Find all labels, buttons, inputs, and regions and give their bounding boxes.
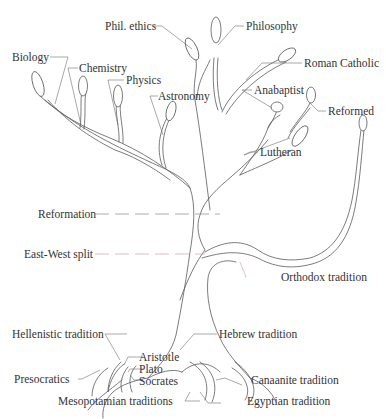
- label-hellenistic-tradition: Hellenistic tradition: [12, 328, 104, 340]
- label-plato: Plato: [139, 363, 163, 375]
- label-biology: Biology: [12, 51, 49, 64]
- label-mesopotamian-traditions: Mesopotamian traditions: [58, 395, 173, 408]
- label-anabaptist: Anabaptist: [254, 84, 305, 97]
- label-phil-ethics: Phil. ethics: [105, 20, 157, 32]
- label-hebrew-tradition: Hebrew tradition: [219, 328, 297, 340]
- label-egyptian-tradition: Egyptian tradition: [247, 395, 331, 408]
- label-socrates: Socrates: [139, 375, 178, 387]
- label-philosophy: Philosophy: [246, 20, 298, 33]
- label-canaanite-tradition: Canaanite tradition: [251, 374, 339, 386]
- label-lutheran: Lutheran: [260, 146, 302, 158]
- label-reformed: Reformed: [328, 105, 374, 117]
- label-physics: Physics: [126, 74, 162, 87]
- label-presocratics: Presocratics: [14, 373, 70, 385]
- label-reformation: Reformation: [38, 208, 96, 220]
- tree-diagram: Phil. ethics Philosophy Roman Catholic B…: [0, 0, 386, 419]
- label-chemistry: Chemistry: [79, 62, 127, 75]
- label-aristotle: Aristotle: [139, 351, 179, 363]
- roots: [88, 362, 276, 418]
- label-east-west-split: East-West split: [24, 248, 94, 261]
- label-astronomy: Astronomy: [158, 90, 210, 103]
- branch-orthodox: [202, 115, 367, 267]
- trunk: [148, 140, 268, 378]
- label-orthodox-tradition: Orthodox tradition: [281, 271, 367, 283]
- label-roman-catholic: Roman Catholic: [304, 57, 379, 69]
